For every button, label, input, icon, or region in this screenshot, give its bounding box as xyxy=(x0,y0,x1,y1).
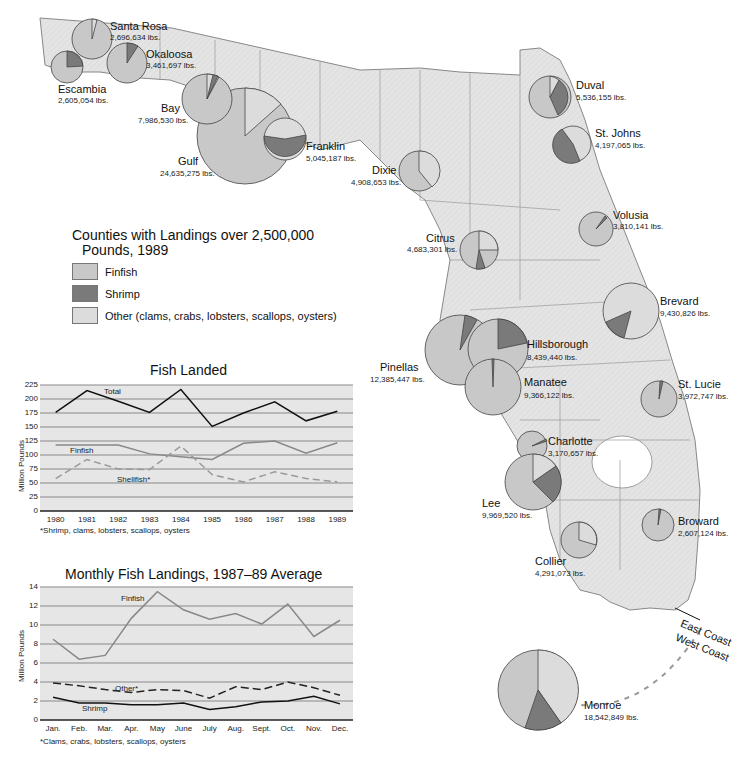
x-tick-label: 1980 xyxy=(44,515,68,524)
y-tick-label: 2 xyxy=(24,696,38,705)
y-tick-label: 200 xyxy=(24,394,38,403)
lbs-manatee: 9,366,122 lbs. xyxy=(524,391,574,400)
pie-volusia xyxy=(579,212,613,246)
chart1-footnote: *Shrimp, clams, lobsters, scallops, oyst… xyxy=(40,526,190,535)
pie-citrus xyxy=(460,231,498,269)
label-brevard: Brevard xyxy=(660,296,699,307)
x-tick-label: Aug. xyxy=(224,724,248,733)
pie-dixie xyxy=(399,151,440,191)
x-tick-label: Mar. xyxy=(93,724,117,733)
lbs-citrus: 4,683,301 lbs. xyxy=(407,245,457,254)
label-escambia: Escambia xyxy=(58,84,106,95)
finfish-swatch xyxy=(72,263,98,280)
y-tick-label: 75 xyxy=(24,464,38,473)
label-lee: Lee xyxy=(482,498,500,509)
x-tick-label: Feb. xyxy=(67,724,91,733)
y-tick-label: 4 xyxy=(24,677,38,686)
y-tick-label: 50 xyxy=(24,478,38,487)
chart2-footnote: *Clams, crabs, lobsters, scallops, oyste… xyxy=(40,737,186,746)
x-tick-label: 1985 xyxy=(200,515,224,524)
lake-okeechobee xyxy=(592,436,652,488)
x-tick-label: 1989 xyxy=(325,515,349,524)
legend-item-other: Other (clams, crabs, lobsters, scallops,… xyxy=(72,307,337,324)
y-tick-label: 8 xyxy=(24,639,38,648)
label-monroe: Monroe xyxy=(584,700,621,711)
label-manatee: Manatee xyxy=(524,377,567,388)
chart2-other-label: Other* xyxy=(115,684,138,693)
y-tick-label: 100 xyxy=(24,450,38,459)
chart1-shellfish-label: Shellfish* xyxy=(117,475,150,484)
monthly-landings-chart xyxy=(40,587,353,720)
label-broward: Broward xyxy=(678,516,719,527)
y-tick-label: 225 xyxy=(24,380,38,389)
legend-title: Counties with Landings over 2,500,000 Po… xyxy=(72,228,337,258)
label-pinellas: Pinellas xyxy=(380,362,419,373)
x-tick-label: Jan. xyxy=(41,724,65,733)
x-tick-label: 1988 xyxy=(294,515,318,524)
x-tick-label: June xyxy=(171,724,195,733)
label-franklin: Franklin xyxy=(306,141,345,152)
pie-okaloosa xyxy=(107,43,147,83)
lbs-lee: 9,969,520 lbs. xyxy=(482,511,532,520)
pie-franklin xyxy=(264,118,306,160)
label-santa-rosa: Santa Rosa xyxy=(110,21,167,32)
chart2-title: Monthly Fish Landings, 1987–89 Average xyxy=(65,566,322,582)
x-tick-label: Apr. xyxy=(119,724,143,733)
lbs-dixie: 4,908,653 lbs. xyxy=(351,178,401,187)
label-gulf: Gulf xyxy=(178,156,198,167)
pie-lee xyxy=(505,454,561,510)
lbs-volusia: 3,810,141 lbs. xyxy=(613,222,663,231)
pie-broward xyxy=(642,509,674,541)
lbs-bay: 7,986,530 lbs. xyxy=(138,116,188,125)
y-tick-label: 150 xyxy=(24,422,38,431)
lbs-gulf: 24,635,275 lbs. xyxy=(160,169,215,178)
x-tick-label: July xyxy=(198,724,222,733)
x-tick-label: Nov. xyxy=(302,724,326,733)
y-tick-label: 175 xyxy=(24,408,38,417)
y-tick-label: 6 xyxy=(24,658,38,667)
pie-brevard xyxy=(603,283,659,339)
legend-item-shrimp: Shrimp xyxy=(72,285,337,302)
label-hillsborough: Hillsborough xyxy=(527,339,588,350)
lbs-pinellas: 12,385,447 lbs. xyxy=(370,375,425,384)
lbs-brevard: 9,430,826 lbs. xyxy=(660,309,710,318)
pie-santa-rosa xyxy=(72,19,112,59)
chart2-ylabel: Million Pounds xyxy=(17,630,26,682)
lbs-collier: 4,291,073 lbs. xyxy=(535,569,585,578)
lbs-okaloosa: 3,461,697 lbs. xyxy=(146,61,196,70)
other-swatch xyxy=(72,307,98,324)
x-tick-label: Oct. xyxy=(276,724,300,733)
label-citrus: Citrus xyxy=(426,233,455,244)
x-tick-label: Dec. xyxy=(328,724,352,733)
label-dixie: Dixie xyxy=(372,165,396,176)
y-tick-label: 25 xyxy=(24,492,38,501)
label-st-lucie: St. Lucie xyxy=(678,379,721,390)
lbs-santa-rosa: 2,696,634 lbs. xyxy=(110,33,160,42)
y-tick-label: 125 xyxy=(24,436,38,445)
label-volusia: Volusia xyxy=(613,210,648,221)
x-tick-label: Sept. xyxy=(250,724,274,733)
chart2-finfish-label: Finfish xyxy=(121,594,145,603)
pie-duval xyxy=(529,76,571,118)
legend-item-finfish: Finfish xyxy=(72,263,337,280)
x-tick-label: 1984 xyxy=(169,515,193,524)
pie-monroe xyxy=(498,650,578,730)
lbs-monroe: 18,542,849 lbs. xyxy=(584,713,639,722)
label-bay: Bay xyxy=(161,103,180,114)
chart2-shrimp-label: Shrimp xyxy=(82,704,107,713)
y-tick-label: 0 xyxy=(24,715,38,724)
label-duval: Duval xyxy=(576,80,604,91)
y-tick-label: 12 xyxy=(24,601,38,610)
map-legend: Counties with Landings over 2,500,000 Po… xyxy=(72,228,337,324)
x-tick-label: May xyxy=(145,724,169,733)
pie-collier xyxy=(561,522,597,558)
x-tick-label: 1982 xyxy=(106,515,130,524)
label-st-johns: St. Johns xyxy=(595,128,641,139)
label-okaloosa: Okaloosa xyxy=(146,49,192,60)
y-tick-label: 14 xyxy=(24,582,38,591)
pie-manatee xyxy=(465,359,521,415)
pie-bay xyxy=(182,74,232,124)
lbs-duval: 5,536,155 lbs. xyxy=(576,93,626,102)
lbs-charlotte: 3,170,657 lbs. xyxy=(548,449,598,458)
x-tick-label: 1981 xyxy=(75,515,99,524)
